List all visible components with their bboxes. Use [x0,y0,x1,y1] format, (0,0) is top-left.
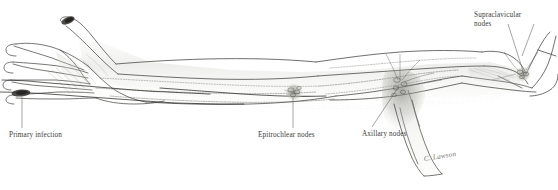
label-primary-infection: Primary infection [9,131,62,140]
supraclavicular-leader-2 [522,24,534,56]
label-epitrochlear-nodes: Epitrochlear nodes [258,131,315,140]
anatomy-drawing [0,0,558,190]
label-axillary-nodes: Axillary nodes [362,130,407,139]
label-supraclavicular-line2: nodes [474,20,534,29]
lesion-thumb-tip [60,15,76,27]
label-supraclavicular-line1: Supraclavicular [474,11,534,20]
supraclavicular-leader [508,24,524,74]
label-supraclavicular-nodes: Supraclavicular nodes [474,11,534,28]
anatomical-illustration: Primary infection Epitrochlear nodes Axi… [0,0,558,190]
